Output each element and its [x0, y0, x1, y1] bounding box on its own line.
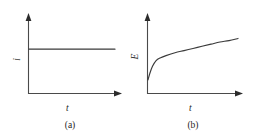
panel-b-y-axis-arrow	[145, 13, 151, 21]
panel-a-plot	[26, 13, 122, 96]
panel-b-potential-curve	[148, 38, 238, 79]
panel-b-caption: (b)	[178, 121, 208, 131]
panel-a-x-axis-label: t	[66, 104, 69, 114]
figure-canvas	[0, 0, 254, 140]
panel-a-y-axis-label: i	[13, 54, 24, 65]
panel-b-x-axis-label: t	[189, 104, 192, 114]
panel-b-x-axis-arrow	[235, 91, 243, 97]
figure-container: i t (a) E t (b)	[0, 0, 254, 140]
panel-b-y-axis-label: E	[131, 50, 144, 63]
panel-a-x-axis-arrow	[114, 91, 122, 97]
panel-a-caption: (a)	[55, 121, 85, 131]
panel-a-y-axis-arrow	[26, 13, 32, 21]
panel-b-plot	[145, 13, 243, 96]
